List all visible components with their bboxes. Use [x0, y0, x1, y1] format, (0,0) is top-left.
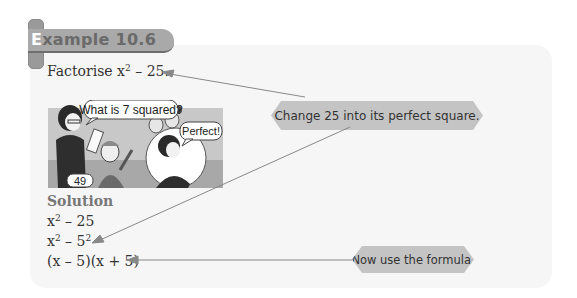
arrowhead-icon — [92, 235, 104, 243]
pointer-arrows — [0, 0, 577, 298]
arrowhead-icon — [127, 256, 138, 264]
arrow-line-to-step-2 — [100, 127, 350, 240]
arrowhead-icon — [162, 70, 174, 77]
arrow-line-to-question — [170, 74, 305, 97]
